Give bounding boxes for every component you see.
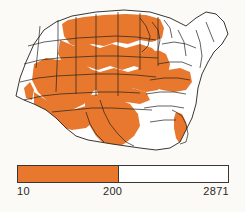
- legend-swatch-low: [18, 166, 119, 182]
- us-map-svg: [0, 0, 245, 160]
- legend-label-mid: 200: [103, 185, 122, 197]
- legend-label-max: 2871: [203, 185, 229, 197]
- figure-root: 10 200 2871: [0, 0, 245, 212]
- legend-tick-labels: 10 200 2871: [17, 185, 229, 203]
- choropleth-map: [0, 0, 245, 160]
- legend-label-min: 10: [17, 185, 30, 197]
- legend-color-bar: [17, 165, 229, 183]
- legend-swatch-high: [119, 166, 228, 182]
- legend: 10 200 2871: [0, 160, 245, 212]
